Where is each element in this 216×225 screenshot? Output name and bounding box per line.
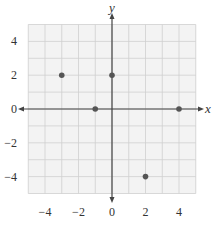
- y-tick-label: 0: [11, 102, 17, 116]
- x-tick-label: 0: [109, 205, 115, 219]
- y-axis-label: y: [107, 0, 115, 15]
- data-point: [92, 106, 98, 112]
- x-axis-label: x: [204, 101, 211, 116]
- data-point: [176, 106, 182, 112]
- y-tick-label: −2: [4, 136, 17, 150]
- y-tick-label: 2: [11, 68, 17, 82]
- scatter-plot: x y −4−2024 420−2−4: [0, 0, 216, 225]
- x-axis-arrow-left-icon: [18, 107, 24, 112]
- x-tick-label: 4: [176, 205, 182, 219]
- x-tick-labels: −4−2024: [39, 205, 182, 219]
- data-point: [59, 72, 65, 78]
- x-tick-label: −2: [72, 205, 85, 219]
- data-point: [109, 72, 115, 78]
- data-point: [143, 174, 149, 180]
- y-axis-arrow-down-icon: [110, 197, 115, 203]
- y-tick-labels: 420−2−4: [4, 34, 17, 183]
- x-axis-arrow-right-icon: [198, 107, 204, 112]
- x-tick-label: 2: [143, 205, 149, 219]
- x-tick-label: −4: [39, 205, 52, 219]
- y-tick-label: −4: [4, 170, 17, 184]
- y-tick-label: 4: [11, 34, 17, 48]
